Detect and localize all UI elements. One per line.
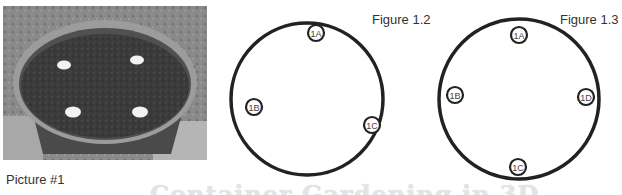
svg-text:1C: 1C <box>512 163 524 173</box>
marker-1c: 1C <box>510 159 526 175</box>
svg-text:1C: 1C <box>366 121 378 131</box>
svg-text:1D: 1D <box>580 93 592 103</box>
svg-text:1A: 1A <box>310 29 321 39</box>
marker-1a: 1A <box>511 27 527 43</box>
svg-text:1A: 1A <box>513 31 524 41</box>
watermark-text: Container Gardening in 3D <box>150 180 480 195</box>
placement-diagrams: 1A 1B 1C 1A 1B 1D 1C <box>0 0 622 195</box>
figure-1-3-diagram: 1A 1B 1D 1C <box>439 19 599 179</box>
svg-text:1B: 1B <box>248 103 259 113</box>
marker-1a: 1A <box>308 25 324 41</box>
figure-1-2-diagram: 1A 1B 1C <box>231 23 383 175</box>
marker-1c: 1C <box>364 117 380 133</box>
svg-text:1B: 1B <box>449 91 460 101</box>
marker-1b: 1B <box>246 99 262 115</box>
marker-1d: 1D <box>578 89 594 105</box>
marker-1b: 1B <box>447 87 463 103</box>
